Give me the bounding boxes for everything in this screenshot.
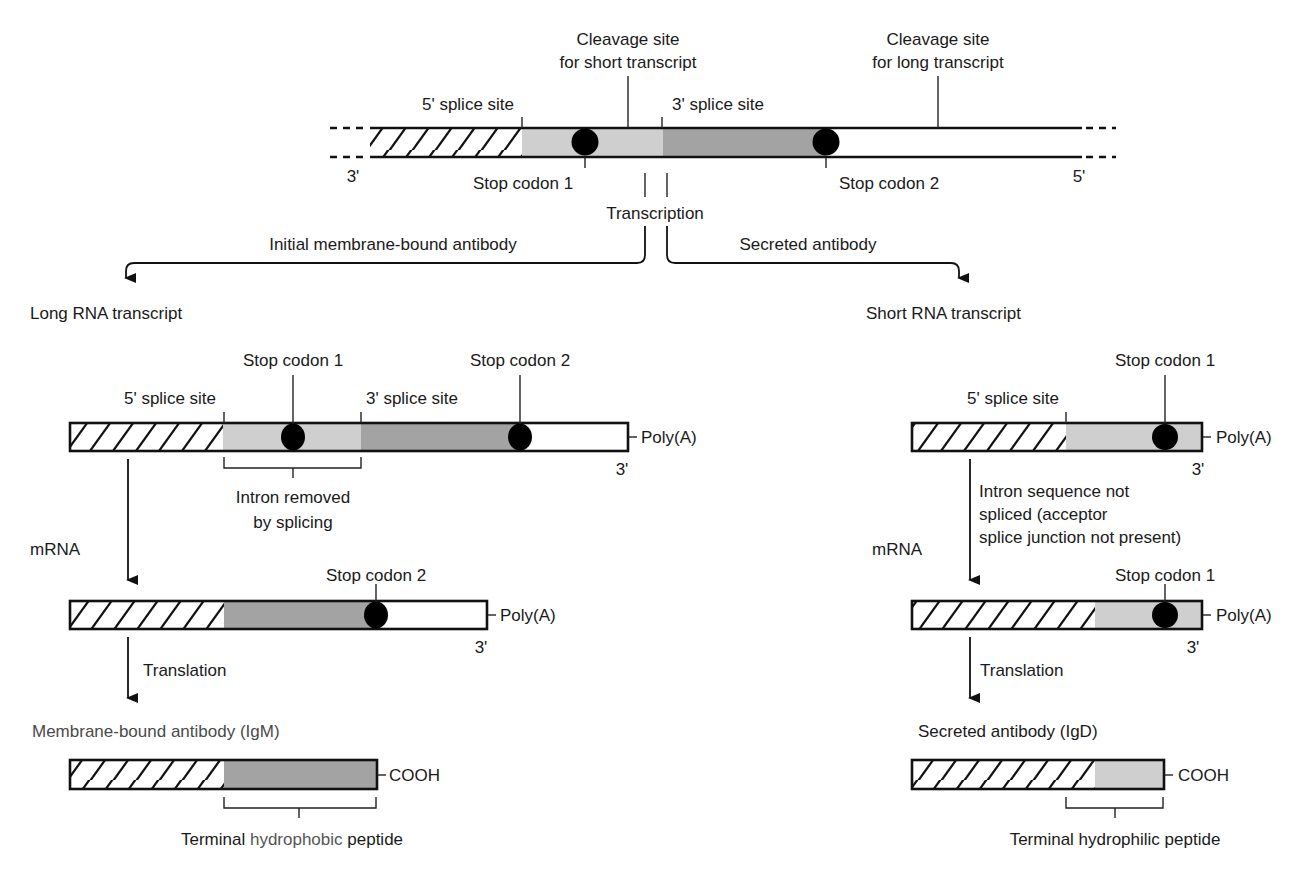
- stop-codon-2-marker: [508, 424, 532, 451]
- gene-end-3-label: 3': [347, 167, 360, 186]
- hydrophobic-peptide-label: Terminal hydrophobic peptide: [181, 830, 403, 849]
- no-splice-note-3: splice junction not present): [979, 528, 1181, 547]
- igm-protein-bar: [70, 760, 386, 818]
- antibody-splicing-diagram: Cleavage site for short transcript Cleav…: [0, 0, 1312, 869]
- right-translation-label: Translation: [980, 661, 1063, 680]
- hydrophilic-bracket: [1066, 797, 1163, 808]
- long-transcript-title: Long RNA transcript: [30, 304, 182, 323]
- cleavage-short-label-2: for short transcript: [560, 53, 697, 72]
- short-5-splice-label: 5' splice site: [967, 389, 1059, 408]
- long-end-3-label: 3': [616, 460, 629, 479]
- branch-right-label: Secreted antibody: [739, 235, 877, 254]
- gene-5-splice-label: 5' splice site: [422, 95, 514, 114]
- intron-label-2: by splicing: [253, 513, 332, 532]
- short-mrna-stop1-label: Stop codon 1: [1115, 566, 1215, 585]
- short-mrna-polya-label: Poly(A): [1216, 606, 1272, 625]
- mrna-end-3-label: 3': [475, 638, 488, 657]
- stop-codon-1-marker: [1152, 602, 1178, 628]
- cleavage-long-label-1: Cleavage site: [886, 30, 989, 49]
- stop-codon-1-marker: [281, 424, 305, 451]
- short-mrna-end-3-label: 3': [1187, 638, 1200, 657]
- mrna-stop2-label: Stop codon 2: [326, 566, 426, 585]
- hatched-segment: [370, 128, 522, 157]
- stop-codon-2-marker: [364, 602, 388, 629]
- stop-codon-1-marker: [1152, 424, 1178, 450]
- intron-label-1: Intron removed: [236, 488, 350, 507]
- left-mrna-label: mRNA: [30, 540, 81, 559]
- short-end-3-label: 3': [1192, 460, 1205, 479]
- right-mrna-label: mRNA: [872, 540, 923, 559]
- long-mrna-bar: [70, 584, 496, 629]
- hydrophilic-peptide-label: Terminal hydrophilic peptide: [1010, 830, 1221, 849]
- igd-product-label: Secreted antibody (IgD): [918, 722, 1098, 741]
- short-transcript-title: Short RNA transcript: [866, 304, 1021, 323]
- cleavage-short-label-1: Cleavage site: [576, 30, 679, 49]
- igm-product-label: Membrane-bound antibody (IgM): [32, 722, 280, 741]
- cleavage-long-label-2: for long transcript: [872, 53, 1004, 72]
- stop-codon-2-marker: [813, 129, 840, 156]
- long-polya-label: Poly(A): [641, 428, 697, 447]
- stop-codon-1-marker: [572, 129, 599, 156]
- intron-bracket: [224, 457, 361, 468]
- short-mrna-bar: [912, 584, 1211, 629]
- igd-cooh-label: COOH: [1178, 766, 1229, 785]
- dark-segment: [663, 128, 826, 157]
- transcription-label: Transcription: [606, 204, 704, 223]
- hydrophobic-bracket: [224, 797, 376, 808]
- long-stop2-label: Stop codon 2: [470, 351, 570, 370]
- gene-dna-bar: [330, 76, 1116, 168]
- short-stop1-label: Stop codon 1: [1115, 351, 1215, 370]
- left-translation-label: Translation: [143, 661, 226, 680]
- gene-stop1-label: Stop codon 1: [473, 174, 573, 193]
- long-5-splice-label: 5' splice site: [124, 389, 216, 408]
- short-rna-bar: [912, 375, 1211, 451]
- mrna-polya-label: Poly(A): [500, 606, 556, 625]
- branch-left-label: Initial membrane-bound antibody: [269, 235, 517, 254]
- short-polya-label: Poly(A): [1216, 428, 1272, 447]
- gene-3-splice-label: 3' splice site: [672, 95, 764, 114]
- long-3-splice-label: 3' splice site: [366, 389, 458, 408]
- no-splice-note-1: Intron sequence not: [979, 482, 1130, 501]
- igm-cooh-label: COOH: [389, 766, 440, 785]
- gene-end-5-label: 5': [1073, 167, 1086, 186]
- no-splice-note-2: spliced (acceptor: [979, 505, 1108, 524]
- igd-protein-bar: [912, 760, 1173, 818]
- long-stop1-label: Stop codon 1: [243, 351, 343, 370]
- gene-stop2-label: Stop codon 2: [839, 174, 939, 193]
